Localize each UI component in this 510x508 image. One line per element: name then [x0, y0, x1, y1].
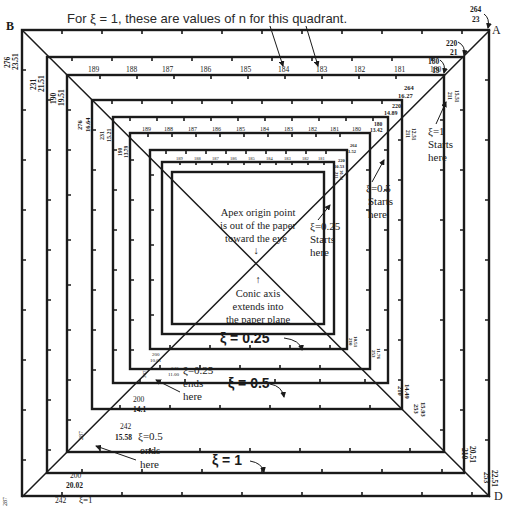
svg-text:Starts: Starts	[368, 195, 393, 207]
svg-text:253: 253	[371, 350, 376, 358]
svg-text:ξ=0.5: ξ=0.5	[138, 430, 163, 443]
svg-text:the paper plane: the paper plane	[226, 314, 290, 325]
svg-text:210: 210	[348, 338, 353, 346]
svg-text:23.51: 23.51	[11, 53, 20, 70]
svg-text:242: 242	[120, 422, 132, 431]
svg-text:182: 182	[354, 65, 366, 74]
svg-text:14.1: 14.1	[133, 405, 146, 414]
svg-text:189: 189	[176, 156, 184, 161]
svg-text:ξ=0.5: ξ=0.5	[366, 182, 391, 195]
svg-text:ξ=0.25: ξ=0.25	[183, 364, 214, 377]
svg-text:211: 211	[447, 92, 453, 100]
apex-annotation: Apex origin point is out of the paper to…	[220, 207, 296, 256]
spiral-square-diagram: A B D 189 188 187 186 185 184 183 182 18…	[0, 0, 510, 508]
svg-text:ends: ends	[140, 444, 160, 456]
svg-text:188: 188	[126, 65, 138, 74]
xi025-starts-annotation: ξ=0.25 Starts here	[310, 220, 341, 258]
corner-label-a: A	[492, 23, 501, 37]
svg-text:20.02: 20.02	[66, 481, 83, 490]
svg-text:186: 186	[212, 126, 221, 132]
svg-text:16.27: 16.27	[398, 92, 413, 99]
svg-text:287: 287	[142, 370, 147, 378]
svg-text:186: 186	[200, 65, 212, 74]
svg-text:185: 185	[236, 126, 245, 132]
svg-text:here: here	[140, 458, 159, 470]
svg-text:182: 182	[308, 126, 317, 132]
xi025-ends-arrow	[156, 380, 180, 392]
svg-text:185: 185	[240, 65, 252, 74]
svg-text:ξ=0.25: ξ=0.25	[310, 220, 341, 233]
conic-annotation: ↑ Conic axis extends into the paper plan…	[226, 274, 290, 325]
svg-text:184: 184	[260, 126, 269, 132]
apex-down-arrow-icon: ↓	[253, 245, 258, 256]
svg-text:287: 287	[2, 497, 8, 506]
svg-text:21: 21	[450, 48, 458, 57]
svg-text:184: 184	[266, 156, 274, 161]
svg-text:11.76: 11.76	[376, 348, 381, 359]
svg-text:22.51: 22.51	[490, 470, 499, 487]
svg-text:here: here	[428, 151, 447, 163]
svg-text:189: 189	[142, 126, 151, 132]
svg-text:180: 180	[428, 57, 440, 66]
svg-text:extends into: extends into	[232, 301, 283, 312]
svg-text:14.49: 14.49	[404, 384, 411, 399]
svg-text:15.51: 15.51	[454, 90, 460, 103]
svg-text:253: 253	[482, 472, 491, 484]
svg-text:ξ=1: ξ=1	[428, 125, 445, 138]
svg-text:20.51: 20.51	[468, 446, 477, 463]
svg-text:189: 189	[88, 65, 100, 74]
svg-text:264: 264	[350, 143, 358, 148]
svg-text:183: 183	[284, 156, 292, 161]
svg-text:15.58: 15.58	[115, 433, 132, 442]
svg-text:183: 183	[316, 65, 328, 74]
svg-text:188: 188	[164, 126, 173, 132]
svg-text:ξ=1: ξ=1	[79, 495, 93, 505]
svg-text:19.51: 19.51	[57, 89, 66, 106]
svg-text:10.01: 10.01	[150, 358, 162, 363]
svg-text:182: 182	[302, 156, 309, 161]
svg-text:Apex origin point: Apex origin point	[221, 207, 296, 218]
svg-text:242: 242	[171, 366, 179, 371]
svg-text:here: here	[368, 208, 387, 220]
svg-text:231: 231	[99, 131, 105, 140]
svg-text:187: 187	[188, 126, 197, 132]
svg-text:253: 253	[413, 404, 420, 415]
svg-text:187: 187	[212, 156, 220, 161]
top-n-values-outer: 189 188 187 186 185 184 183 182 181 180	[88, 65, 442, 74]
xi-05-label: ξ = 0.5	[228, 375, 270, 391]
svg-text:10.51: 10.51	[353, 336, 358, 348]
svg-text:264: 264	[470, 5, 482, 14]
corner-label-d: D	[494, 489, 503, 503]
svg-text:11.00: 11.00	[168, 372, 180, 377]
svg-text:23: 23	[472, 15, 480, 24]
svg-text:181: 181	[394, 65, 406, 74]
svg-text:185: 185	[248, 156, 256, 161]
svg-text:188: 188	[194, 156, 202, 161]
svg-text:186: 186	[230, 156, 238, 161]
svg-text:276: 276	[76, 120, 83, 131]
svg-text:183: 183	[284, 126, 293, 132]
svg-text:220: 220	[338, 158, 346, 163]
svg-text:220: 220	[392, 103, 401, 109]
svg-text:242: 242	[55, 496, 67, 505]
xi05-ends-annotation: ξ=0.5 ends here	[138, 430, 163, 470]
svg-text:toward the eye: toward the eye	[225, 233, 287, 244]
svg-text:Starts: Starts	[428, 138, 453, 150]
svg-text:187: 187	[162, 65, 174, 74]
svg-text:13.42: 13.42	[370, 127, 383, 133]
svg-text:Starts: Starts	[310, 233, 335, 245]
svg-text:10.51: 10.51	[339, 170, 344, 181]
svg-text:184: 184	[278, 65, 290, 74]
svg-text:10.53: 10.53	[334, 164, 345, 169]
svg-text:15.21: 15.21	[106, 129, 112, 143]
top-n-values-inner: 189 188 187 186 185 184 183 182 181 180	[142, 126, 361, 132]
svg-text:21.51: 21.51	[37, 75, 46, 92]
svg-text:210: 210	[460, 448, 469, 460]
svg-text:200: 200	[133, 395, 145, 404]
svg-text:15.93: 15.93	[420, 402, 427, 417]
svg-text:11.52: 11.52	[346, 149, 357, 154]
xi1-starts-annotation: ξ=1 Starts here	[428, 125, 453, 163]
corner-label-b: B	[6, 19, 14, 33]
svg-text:19: 19	[432, 66, 440, 75]
svg-text:200: 200	[152, 352, 160, 357]
